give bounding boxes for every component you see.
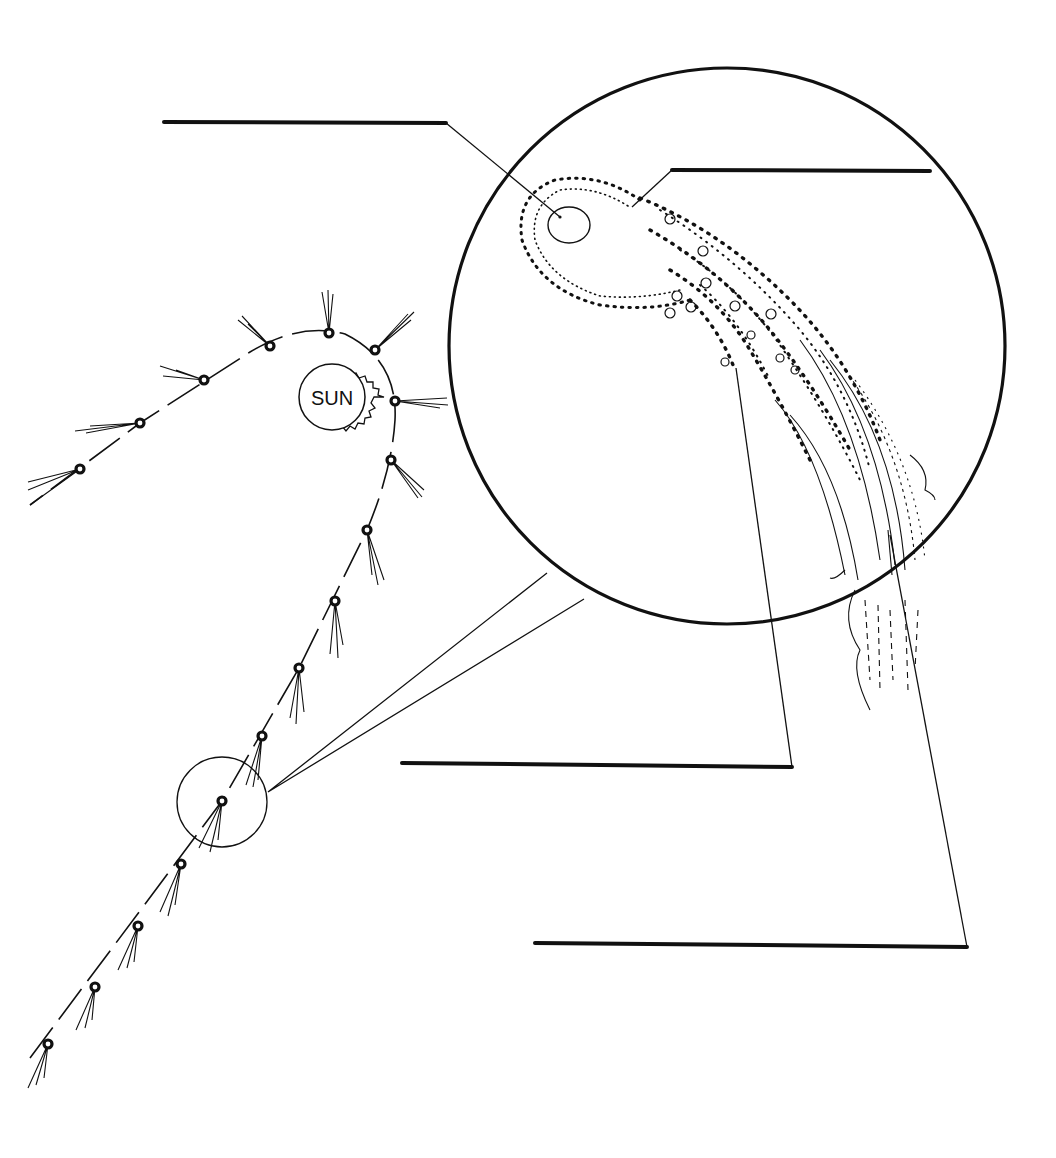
sun: SUN [299,364,384,431]
magnified-comet [521,178,935,710]
magnifier-large-circle [449,68,1005,624]
label-blank-ion-tail[interactable] [535,535,967,947]
comet-tails [28,290,448,1088]
orbit-path [30,331,395,1058]
label-blank-nucleus[interactable] [164,122,560,217]
comet-nuclei [44,329,399,1048]
comet-orbit-diagram: SUN [0,0,1056,1158]
coma-outline [521,178,690,307]
label-blank-coma[interactable] [632,170,930,207]
sun-label: SUN [311,387,353,409]
magnifier-connector [268,573,584,792]
